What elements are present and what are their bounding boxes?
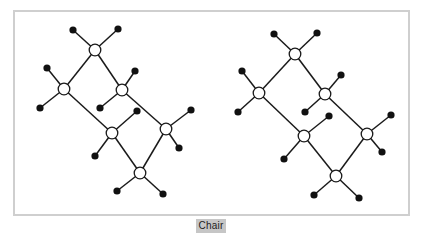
caption-label-chair[interactable]: Chair: [196, 219, 226, 233]
hydrogen-atom: [96, 104, 103, 111]
hydrogen-atom: [378, 148, 385, 155]
carbon-atom: [361, 128, 373, 140]
chair-conformation-diagram: [0, 0, 425, 234]
hydrogen-atom: [159, 190, 166, 197]
c-c-bond: [259, 93, 304, 136]
carbon-atom: [319, 88, 331, 100]
c-c-bond: [64, 50, 95, 89]
carbon-atom: [298, 130, 310, 142]
hydrogen-atom: [337, 71, 344, 78]
hydrogen-atom: [187, 106, 194, 113]
c-c-bond: [112, 133, 140, 173]
hydrogen-atom: [301, 108, 308, 115]
hydrogen-atom: [69, 26, 76, 33]
hydrogen-atom: [43, 64, 50, 71]
c-c-bond: [64, 89, 112, 133]
c-c-bond: [95, 50, 122, 90]
carbon-atom: [330, 170, 342, 182]
c-c-bond: [140, 129, 166, 173]
hydrogen-atom: [238, 67, 245, 74]
carbon-atom: [116, 84, 128, 96]
hydrogen-atom: [131, 67, 138, 74]
c-c-bond: [259, 54, 295, 93]
hydrogen-atom: [325, 112, 332, 119]
carbon-atom: [58, 83, 70, 95]
hydrogen-atom: [313, 29, 320, 36]
hydrogen-atom: [355, 194, 362, 201]
carbon-atom: [134, 167, 146, 179]
hydrogen-atom: [175, 144, 182, 151]
c-c-bond: [122, 90, 166, 129]
hydrogen-atom: [91, 152, 98, 159]
carbon-atom: [160, 123, 172, 135]
c-c-bond: [304, 136, 336, 176]
hydrogen-atom: [133, 107, 140, 114]
carbon-atom: [89, 44, 101, 56]
hydrogen-atom: [36, 104, 43, 111]
carbon-atom: [106, 127, 118, 139]
hydrogen-atom: [113, 187, 120, 194]
chair-right: [234, 29, 394, 201]
hydrogen-atom: [114, 25, 121, 32]
carbon-atom: [289, 48, 301, 60]
carbon-atom: [253, 87, 265, 99]
hydrogen-atom: [310, 191, 317, 198]
hydrogen-atom: [387, 111, 394, 118]
c-c-bond: [295, 54, 325, 94]
chair-left: [36, 25, 194, 197]
hydrogen-atom: [280, 155, 287, 162]
hydrogen-atom: [270, 30, 277, 37]
c-c-bond: [336, 134, 367, 176]
hydrogen-atom: [234, 108, 241, 115]
